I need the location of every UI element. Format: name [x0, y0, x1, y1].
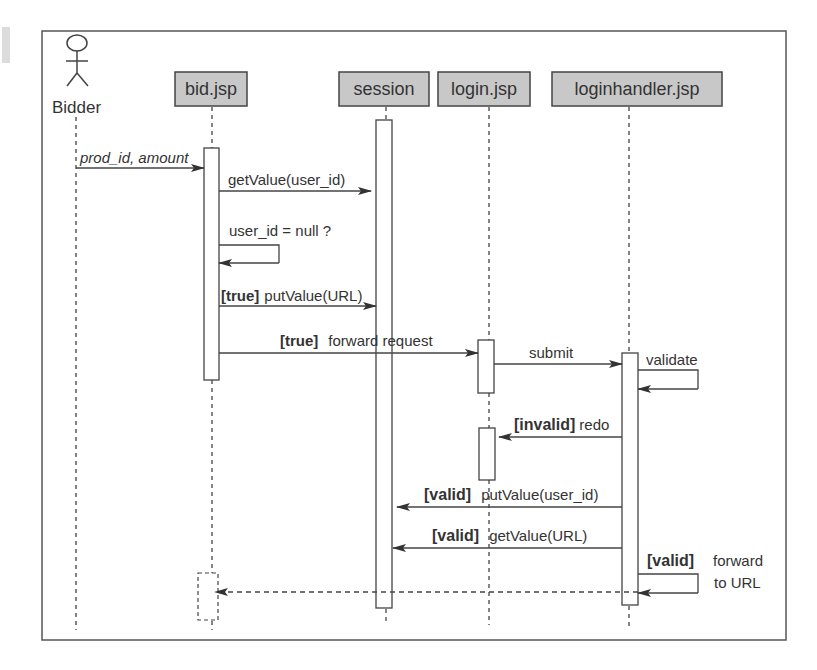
guard-label: [invalid] — [514, 416, 575, 433]
sequence-diagram: Bidder bid.jsp session login.jsp loginha… — [0, 0, 817, 670]
guard-label: [true] — [221, 287, 259, 304]
message-self-loop-forward-to-url — [638, 574, 698, 593]
message-label: [valid]getValue(URL) — [432, 527, 587, 544]
participant-label: session — [353, 79, 414, 99]
activation-bid-jsp — [204, 148, 219, 380]
stick-figure-icon — [66, 35, 88, 86]
message-self-loop-validate — [638, 370, 698, 389]
message-label: validate — [646, 351, 698, 368]
participant-loginhandler-jsp[interactable]: loginhandler.jsp — [552, 72, 722, 106]
participant-session[interactable]: session — [339, 72, 429, 106]
participant-label: bid.jsp — [185, 79, 237, 99]
participant-label: loginhandler.jsp — [574, 79, 699, 99]
message-label: [invalid]redo — [514, 416, 609, 433]
message-label: submit — [529, 344, 574, 361]
guard-label: [valid] — [647, 552, 694, 569]
activation-login-jsp-2 — [479, 428, 495, 480]
message-label: [true]forward request — [280, 332, 433, 349]
activation-bid-jsp-return — [198, 573, 218, 620]
guard-label: [true] — [280, 332, 318, 349]
message-self-loop-null-check — [219, 245, 279, 263]
message-label-line2: to URL — [714, 574, 761, 591]
participant-bid-jsp[interactable]: bid.jsp — [175, 72, 247, 106]
activation-loginhandler — [622, 353, 638, 605]
actor-label-bidder: Bidder — [52, 98, 101, 117]
participant-label: login.jsp — [451, 79, 517, 99]
activation-login-jsp-1 — [478, 340, 494, 393]
guard-label: [valid] — [432, 527, 479, 544]
activation-session — [376, 120, 392, 608]
participant-login-jsp[interactable]: login.jsp — [438, 72, 530, 106]
message-label: prod_id, amount — [79, 149, 189, 166]
guard-label: [valid] — [424, 486, 471, 503]
message-label: user_id = null ? — [229, 222, 331, 239]
message-label-line1: forward — [713, 552, 763, 569]
message-label: [valid]putValue(user_id) — [424, 486, 598, 503]
message-label: [true]putValue(URL) — [221, 287, 362, 304]
message-label: getValue(user_id) — [228, 171, 345, 188]
